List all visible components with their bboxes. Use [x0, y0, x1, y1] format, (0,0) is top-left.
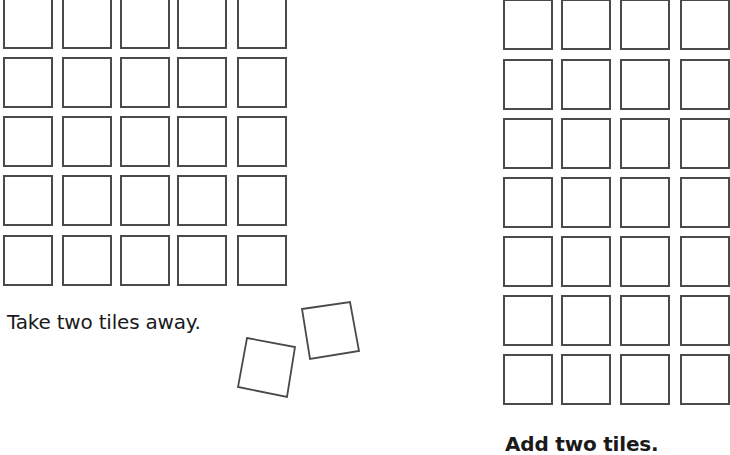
right-grid-tile	[620, 0, 670, 50]
right-grid-tile	[620, 118, 670, 169]
right-instruction-caption: Add two tiles.	[505, 432, 658, 455]
left-grid-tile	[120, 116, 170, 167]
right-grid-tile	[561, 59, 611, 110]
right-grid-tile	[561, 0, 611, 50]
right-grid-tile	[620, 177, 670, 228]
left-grid-tile	[120, 235, 170, 286]
right-grid-tile	[503, 0, 553, 50]
left-grid-tile	[3, 175, 53, 226]
right-grid-tile	[680, 118, 730, 169]
left-grid-tile	[177, 235, 227, 286]
right-grid-tile	[503, 177, 553, 228]
right-grid-tile	[680, 0, 730, 50]
left-grid-tile	[3, 0, 53, 49]
right-grid-tile	[561, 118, 611, 169]
right-grid-tile	[620, 354, 670, 405]
right-grid-tile	[503, 354, 553, 405]
left-grid-tile	[237, 116, 287, 167]
left-grid-tile	[237, 235, 287, 286]
removed-tile-1	[302, 302, 359, 359]
right-grid-tile	[620, 295, 670, 346]
left-grid-tile	[120, 57, 170, 108]
left-grid-tile	[237, 175, 287, 226]
left-grid-tile	[62, 57, 112, 108]
left-grid-tile	[3, 57, 53, 108]
left-grid-tile	[237, 0, 287, 49]
right-grid-tile	[680, 295, 730, 346]
left-grid-tile	[237, 57, 287, 108]
right-grid-tile	[620, 236, 670, 287]
right-grid-tile	[503, 118, 553, 169]
left-grid-tile	[177, 116, 227, 167]
right-grid-tile	[680, 59, 730, 110]
left-instruction-caption: Take two tiles away.	[7, 310, 201, 334]
left-grid-tile	[177, 175, 227, 226]
left-grid-tile	[120, 175, 170, 226]
right-grid-tile	[561, 295, 611, 346]
right-grid-tile	[561, 354, 611, 405]
right-grid-tile	[680, 236, 730, 287]
left-grid-tile	[62, 175, 112, 226]
left-grid-tile	[62, 0, 112, 49]
right-grid-tile	[680, 177, 730, 228]
left-grid-tile	[120, 0, 170, 49]
right-grid-tile	[503, 236, 553, 287]
right-grid-tile	[503, 59, 553, 110]
right-grid-tile	[680, 354, 730, 405]
left-grid-tile	[3, 116, 53, 167]
right-grid-tile	[561, 177, 611, 228]
right-grid-tile	[561, 236, 611, 287]
left-grid-tile	[177, 0, 227, 49]
right-grid-tile	[620, 59, 670, 110]
left-grid-tile	[3, 235, 53, 286]
left-grid-tile	[62, 116, 112, 167]
left-grid-tile	[177, 57, 227, 108]
left-grid-tile	[62, 235, 112, 286]
removed-tile-2	[238, 338, 295, 397]
right-grid-tile	[503, 295, 553, 346]
